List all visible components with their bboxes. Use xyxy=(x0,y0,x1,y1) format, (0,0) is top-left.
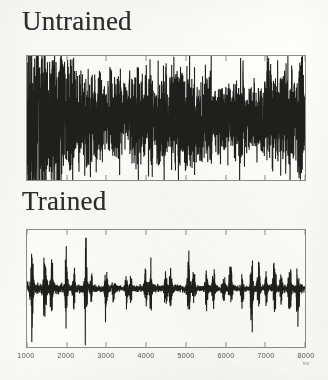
panel-untrained: Untrained xyxy=(0,4,328,180)
x-tick-8000 xyxy=(305,175,306,180)
trace-area-untrained xyxy=(27,56,305,180)
x-tick-4000 xyxy=(146,175,147,180)
figure-root: Untrained Trained 100020003000400 xyxy=(0,0,328,380)
x-tick-7000 xyxy=(265,342,266,347)
x-tick-2000 xyxy=(66,175,67,180)
x-tick-6000 xyxy=(225,175,226,180)
x-tick-3000 xyxy=(106,175,107,180)
x-tick-5000 xyxy=(185,342,186,347)
x-tick-3000 xyxy=(106,342,107,347)
x-tick-7000 xyxy=(265,175,266,180)
panel-trained: Trained 10002000300040005000600070008000… xyxy=(0,186,328,352)
x-tick-8000 xyxy=(305,342,306,347)
signal-trace-trained xyxy=(27,230,305,347)
plot-frame-untrained xyxy=(26,55,306,181)
x-axis-label-3000: 3000 xyxy=(98,351,115,360)
x-tick-4000 xyxy=(146,342,147,347)
x-tick-1000 xyxy=(27,342,28,347)
x-tick-6000 xyxy=(225,342,226,347)
panel-title-untrained: Untrained xyxy=(22,6,132,36)
x-axis-label-1000: 1000 xyxy=(18,351,35,360)
plot-frame-trained xyxy=(26,229,306,348)
panel-title-trained: Trained xyxy=(22,186,106,216)
x-axis-labels: 10002000300040005000600070008000ms xyxy=(26,351,306,373)
x-tick-2000 xyxy=(66,342,67,347)
x-axis-label-7000: 7000 xyxy=(258,351,275,360)
x-axis-label-2000: 2000 xyxy=(58,351,75,360)
x-tick-1000 xyxy=(27,175,28,180)
x-tick-5000 xyxy=(185,175,186,180)
x-axis-unit-label: ms xyxy=(303,361,309,367)
x-axis-label-5000: 5000 xyxy=(178,351,195,360)
x-axis-label-8000: 8000 xyxy=(298,351,315,360)
x-axis-label-6000: 6000 xyxy=(218,351,235,360)
signal-trace-untrained xyxy=(27,56,305,180)
trace-area-trained xyxy=(27,230,305,347)
x-axis-label-4000: 4000 xyxy=(138,351,155,360)
